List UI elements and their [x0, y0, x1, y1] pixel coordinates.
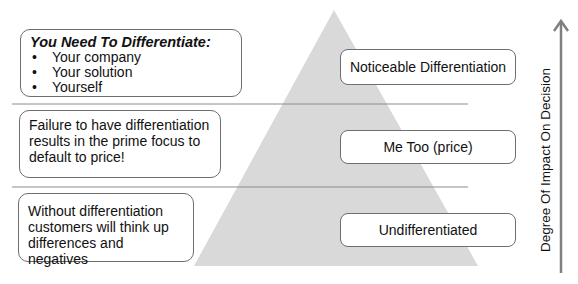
note-heading: You Need To Differentiate:: [30, 35, 233, 50]
list-item: • Your company: [30, 50, 233, 65]
bullet-text: Yourself: [52, 80, 102, 95]
bullet-list: • Your company • Your solution • Yoursel…: [30, 50, 233, 95]
list-item: • Your solution: [30, 65, 233, 80]
bullet-text: Your company: [52, 50, 141, 65]
level-label-bottom: Undifferentiated: [340, 213, 516, 247]
note-text: Failure to have differentiation results …: [29, 117, 212, 165]
bullet-icon: •: [30, 50, 52, 65]
level-label-text: Me Too (price): [383, 139, 472, 155]
bullet-icon: •: [30, 65, 52, 80]
bullet-text: Your solution: [52, 65, 132, 80]
note-box-bottom: Without differentiation customers will t…: [18, 193, 194, 262]
note-box-middle: Failure to have differentiation results …: [19, 110, 221, 178]
note-box-top: You Need To Differentiate: • Your compan…: [20, 29, 242, 97]
note-text: Without differentiation customers will t…: [28, 203, 185, 267]
arrow-up-icon: [554, 21, 568, 273]
bullet-icon: •: [30, 80, 52, 95]
level-label-text: Noticeable Differentiation: [350, 59, 506, 75]
axis-label: Degree Of Impact On Decision: [538, 68, 553, 252]
level-label-top: Noticeable Differentiation: [340, 49, 516, 85]
list-item: • Yourself: [30, 80, 233, 95]
level-label-text: Undifferentiated: [379, 222, 478, 238]
level-label-middle: Me Too (price): [340, 130, 516, 164]
